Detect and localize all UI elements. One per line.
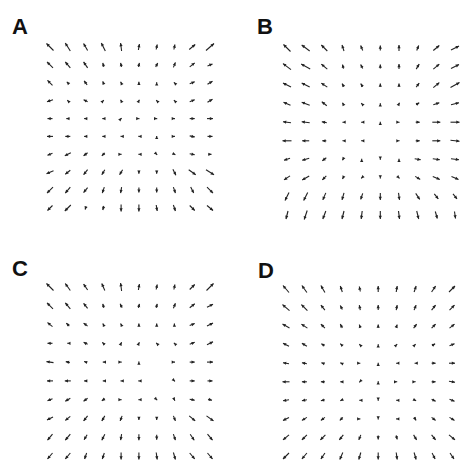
vector-arrow [283, 362, 289, 365]
vector-arrow [301, 324, 307, 328]
vector-arrow [283, 343, 289, 346]
vector-arrow [432, 344, 436, 347]
vector-arrow [432, 362, 436, 365]
vector-arrow [320, 435, 325, 440]
vector-arrow [450, 324, 455, 328]
vector-arrow [412, 380, 415, 383]
vector-arrow [321, 344, 325, 347]
vector-arrow [450, 453, 454, 459]
vector-arrow [283, 380, 290, 383]
vector-arrow [321, 362, 325, 365]
vector-arrow [414, 435, 417, 440]
vector-arrow [377, 453, 380, 460]
vector-arrow [413, 324, 416, 328]
vector-arrow [415, 362, 418, 365]
vector-arrow [340, 286, 343, 292]
vector-arrow [283, 305, 290, 311]
vector-arrow [302, 362, 307, 365]
vector-arrow [449, 362, 455, 365]
vector-arrow [377, 398, 380, 401]
vector-arrow [450, 305, 455, 310]
vector-arrow [432, 453, 435, 459]
vector-arrow [450, 399, 455, 402]
vector-arrow [302, 343, 307, 346]
vector-arrow [414, 453, 417, 460]
vector-arrow [302, 435, 307, 440]
vector-arrow [359, 379, 362, 382]
vector-arrow [395, 305, 398, 310]
vector-arrow [414, 286, 417, 292]
vector-arrow [396, 417, 399, 420]
vector-arrow [321, 286, 325, 293]
vector-arrow [450, 417, 455, 420]
vector-arrow [358, 453, 361, 460]
vector-arrow [395, 435, 398, 439]
vector-arrow [377, 286, 380, 292]
vector-arrow [395, 325, 398, 329]
vector-arrow [302, 380, 307, 383]
vector-arrow [432, 324, 436, 328]
vector-arrow [340, 306, 343, 310]
vector-arrow [377, 435, 380, 439]
vector-arrow [283, 435, 289, 440]
vector-arrow [283, 453, 289, 459]
vector-arrow [340, 398, 344, 401]
vector-arrow [413, 417, 416, 421]
vector-arrow [432, 305, 436, 310]
vector-arrow [357, 417, 360, 420]
vector-arrow [302, 417, 307, 420]
vector-arrow [377, 325, 380, 328]
vector-arrow [340, 417, 343, 420]
vector-arrow [301, 305, 307, 311]
vector-arrow [395, 453, 398, 460]
vector-arrow [321, 399, 325, 402]
vector-arrow [340, 324, 343, 328]
vector-arrow [359, 344, 362, 347]
vector-arrow [283, 399, 289, 402]
vector-arrow [377, 344, 380, 347]
vector-arrow [340, 344, 343, 347]
vector-field-d [0, 0, 467, 468]
vector-arrow [450, 343, 455, 346]
vector-arrow [396, 362, 399, 365]
vector-arrow [283, 417, 289, 420]
vector-arrow [394, 344, 397, 347]
vector-arrow [339, 435, 343, 440]
vector-arrow [412, 344, 415, 347]
vector-arrow [432, 286, 436, 292]
vector-arrow [377, 416, 380, 419]
vector-arrow [340, 380, 343, 383]
vector-arrow [449, 435, 455, 440]
vector-arrow [340, 363, 344, 366]
vector-arrow [377, 363, 380, 366]
vector-arrow [359, 399, 362, 402]
vector-arrow [321, 305, 325, 310]
vector-arrow [432, 380, 436, 383]
vector-arrow [413, 305, 416, 310]
vector-arrow [359, 325, 362, 329]
vector-arrow [321, 453, 325, 459]
vector-arrow [432, 435, 436, 440]
vector-arrow [377, 381, 380, 384]
vector-arrow [395, 286, 398, 292]
vector-arrow [321, 380, 325, 383]
vector-arrow [302, 399, 307, 402]
vector-arrow [394, 380, 397, 383]
vector-arrow [358, 305, 361, 310]
vector-arrow [377, 305, 380, 310]
vector-arrow [359, 435, 362, 440]
vector-arrow [432, 399, 436, 402]
vector-arrow [302, 453, 307, 459]
vector-arrow [283, 286, 289, 293]
vector-arrow [321, 417, 325, 420]
vector-arrow [340, 453, 343, 460]
vector-arrow [358, 287, 361, 292]
vector-arrow [321, 324, 325, 328]
vector-arrow [413, 398, 417, 401]
vector-arrow [396, 399, 399, 402]
vector-arrow [283, 324, 290, 328]
vector-arrow [449, 380, 455, 383]
vector-arrow [357, 362, 360, 365]
vector-arrow [432, 417, 436, 420]
vector-arrow [449, 286, 455, 292]
